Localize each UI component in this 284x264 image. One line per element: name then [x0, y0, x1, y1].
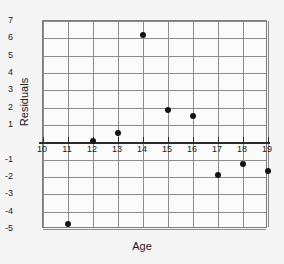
x-axis-tick-label: 17: [206, 145, 228, 154]
x-axis-tick-mark: [243, 137, 244, 142]
gridline-vertical: [68, 21, 69, 227]
gridline-vertical: [193, 21, 194, 227]
y-axis-tick-label: -2: [0, 172, 13, 181]
gridline-horizontal: [43, 38, 266, 39]
x-axis-tick-label: 18: [231, 145, 253, 154]
gridline-horizontal: [43, 194, 266, 195]
y-axis-tick-label: -3: [0, 189, 13, 198]
y-axis-tick-label: 6: [0, 33, 13, 42]
x-axis-tick-mark: [168, 137, 169, 142]
residual-plot-screenshot: 7654321-1-2-3-4-5 10111213141516171819 R…: [0, 0, 284, 264]
x-axis-tick-label: 12: [81, 145, 103, 154]
x-axis-tick-mark: [193, 137, 194, 142]
y-axis-tick-label: 1: [0, 120, 13, 129]
x-axis-tick-label: 13: [106, 145, 128, 154]
y-axis-tick-label: 4: [0, 68, 13, 77]
gridline-vertical: [218, 21, 219, 227]
gridline-horizontal: [43, 125, 266, 126]
x-axis-tick-label: 11: [56, 145, 78, 154]
x-axis-tick-mark: [118, 137, 119, 142]
gridline-horizontal: [43, 73, 266, 74]
data-point: [115, 130, 121, 136]
data-point: [65, 221, 71, 227]
gridline-vertical: [118, 21, 119, 227]
gridline-horizontal: [43, 160, 266, 161]
plot-area: [42, 20, 267, 228]
gridline-vertical: [143, 21, 144, 227]
data-point: [190, 113, 196, 119]
gridline-horizontal: [43, 56, 266, 57]
data-point: [240, 161, 246, 167]
gridline-horizontal: [43, 177, 266, 178]
y-axis-tick-label: 2: [0, 103, 13, 112]
gridline-vertical: [43, 21, 44, 227]
y-axis-title: Residuals: [18, 62, 30, 142]
data-point: [165, 107, 171, 113]
x-axis-tick-mark: [143, 137, 144, 142]
x-axis-tick-label: 15: [156, 145, 178, 154]
gridline-vertical: [243, 21, 244, 227]
y-axis-tick-label: 7: [0, 16, 13, 25]
x-axis-tick-mark: [43, 137, 44, 142]
x-axis-tick-label: 19: [256, 145, 278, 154]
x-axis-tick-label: 10: [31, 145, 53, 154]
x-axis-tick-mark: [218, 137, 219, 142]
x-axis-tick-label: 16: [181, 145, 203, 154]
x-axis-title: Age: [0, 240, 284, 252]
x-axis-tick-label: 14: [131, 145, 153, 154]
gridline-horizontal: [43, 229, 266, 230]
data-point: [265, 168, 271, 174]
gridline-horizontal: [43, 21, 266, 22]
x-axis-tick-mark: [68, 137, 69, 142]
y-axis-tick-label: -1: [0, 155, 13, 164]
gridline-horizontal: [43, 90, 266, 91]
data-point: [140, 32, 146, 38]
gridline-horizontal: [43, 212, 266, 213]
y-axis-tick-label: -5: [0, 224, 13, 233]
gridline-vertical: [268, 21, 269, 227]
gridline-vertical: [168, 21, 169, 227]
gridline-horizontal: [43, 108, 266, 109]
zero-line: [39, 142, 270, 144]
y-axis-tick-label: 3: [0, 85, 13, 94]
y-axis-tick-label: -4: [0, 207, 13, 216]
x-axis-tick-mark: [268, 137, 269, 142]
y-axis-tick-label: 5: [0, 51, 13, 60]
gridline-vertical: [93, 21, 94, 227]
